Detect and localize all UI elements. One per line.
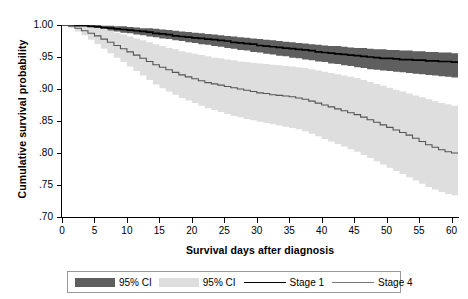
y-tick-label: .80 — [13, 148, 53, 158]
chart-legend: 95% CI95% CIStage 1Stage 4 — [67, 271, 401, 293]
y-tick-label: .90 — [13, 84, 53, 94]
legend-item-1[interactable]: 95% CI — [152, 272, 236, 292]
y-tick-label: .75 — [13, 180, 53, 190]
x-tick-mark — [387, 218, 388, 223]
x-tick-label: 25 — [212, 225, 236, 236]
legend-line-icon — [332, 278, 374, 287]
legend-item-3[interactable]: Stage 4 — [324, 272, 412, 292]
x-tick-mark — [159, 218, 160, 223]
x-axis-line — [61, 217, 459, 218]
y-tick-label: 1.00 — [13, 20, 53, 30]
x-tick-label: 30 — [245, 225, 269, 236]
x-tick-label: 35 — [277, 225, 301, 236]
x-tick-mark — [257, 218, 258, 223]
x-tick-mark — [62, 218, 63, 223]
legend-label: 95% CI — [119, 277, 152, 288]
legend-line-sample — [244, 282, 286, 284]
x-axis-title: Survival days after diagnosis — [62, 244, 458, 256]
legend-label: 95% CI — [203, 277, 236, 288]
y-tick-label: .95 — [13, 52, 53, 62]
survival-chart-figure: Cumulative survival probability .70.75.8… — [0, 0, 468, 299]
x-tick-mark — [289, 218, 290, 223]
legend-line-icon — [244, 278, 286, 287]
x-tick-label: 20 — [180, 225, 204, 236]
x-tick-mark — [322, 218, 323, 223]
y-tick-label: .85 — [13, 116, 53, 126]
x-tick-mark — [94, 218, 95, 223]
x-tick-mark — [192, 218, 193, 223]
x-tick-label: 15 — [147, 225, 171, 236]
legend-item-0[interactable]: 95% CI — [68, 272, 152, 292]
x-tick-label: 5 — [82, 225, 106, 236]
x-tick-label: 10 — [115, 225, 139, 236]
plot-area — [62, 25, 458, 217]
x-tick-mark — [452, 218, 453, 223]
legend-label: Stage 1 — [290, 277, 324, 288]
x-tick-label: 60 — [440, 225, 464, 236]
x-tick-mark — [354, 218, 355, 223]
legend-line-sample — [332, 282, 374, 283]
x-tick-label: 50 — [375, 225, 399, 236]
x-tick-mark — [224, 218, 225, 223]
legend-swatch-icon — [75, 278, 115, 287]
x-tick-label: 0 — [50, 225, 74, 236]
legend-label: Stage 4 — [378, 277, 412, 288]
legend-item-2[interactable]: Stage 1 — [236, 272, 324, 292]
x-tick-label: 45 — [342, 225, 366, 236]
survival-curves-svg — [62, 25, 458, 217]
x-tick-label: 55 — [407, 225, 431, 236]
x-tick-label: 40 — [310, 225, 334, 236]
x-tick-mark — [127, 218, 128, 223]
y-tick-label: .70 — [13, 212, 53, 222]
legend-swatch-icon — [159, 278, 199, 287]
x-tick-mark — [419, 218, 420, 223]
